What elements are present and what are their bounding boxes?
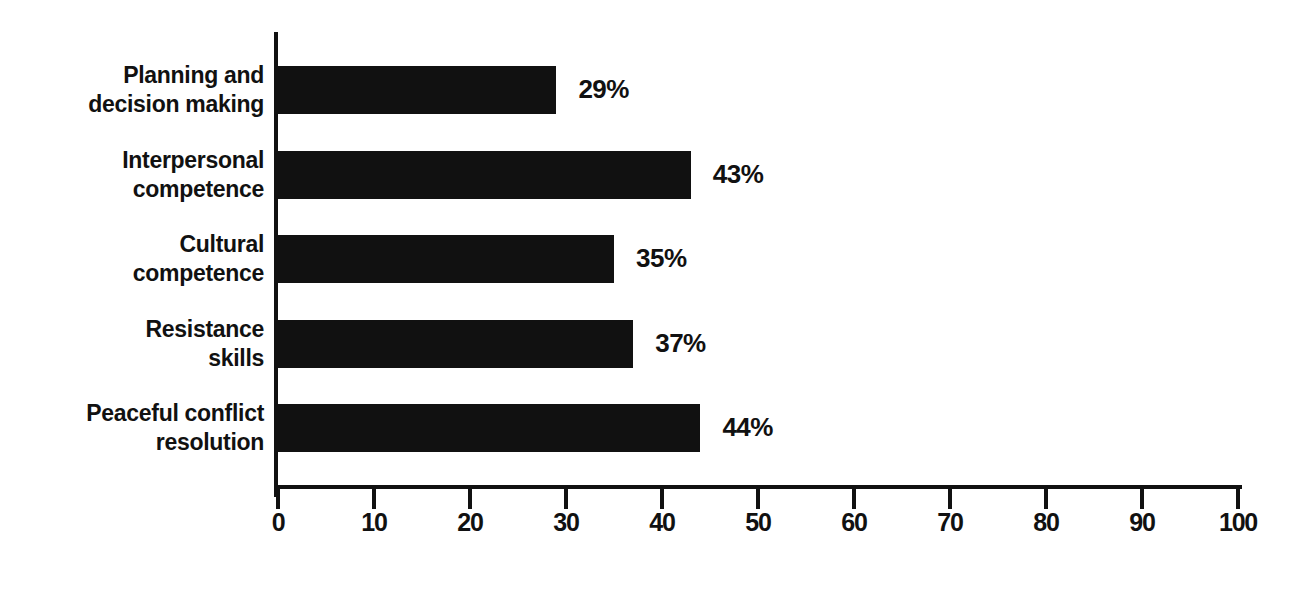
x-axis-tick — [468, 489, 472, 509]
x-axis-tick-label: 0 — [272, 508, 285, 537]
category-label-line: Interpersonal — [122, 146, 264, 175]
bar — [278, 235, 614, 283]
category-label-line: Peaceful conflict — [86, 399, 264, 428]
category-label-line: resolution — [86, 428, 264, 457]
bar-value-label: 29% — [578, 74, 629, 105]
x-axis-tick — [948, 489, 952, 509]
category-label-line: Planning and — [88, 61, 264, 90]
bar — [278, 66, 556, 114]
x-axis-tick-label: 100 — [1219, 508, 1257, 537]
x-axis-line — [278, 485, 1242, 489]
x-axis-tick — [1140, 489, 1144, 509]
x-axis-tick-label: 80 — [1033, 508, 1058, 537]
bar — [278, 404, 700, 452]
category-label: Peaceful conflictresolution — [86, 399, 264, 457]
x-axis-tick-label: 60 — [841, 508, 866, 537]
x-axis-tick — [1236, 489, 1240, 509]
category-label: Culturalcompetence — [133, 230, 264, 288]
x-axis-tick — [372, 489, 376, 509]
category-label-line: skills — [146, 344, 264, 373]
category-label-line: Resistance — [146, 315, 264, 344]
category-label: Planning anddecision making — [88, 61, 264, 119]
bar — [278, 151, 691, 199]
category-label-line: Cultural — [133, 230, 264, 259]
x-axis-tick — [852, 489, 856, 509]
category-label-line: decision making — [88, 90, 264, 119]
bar-value-label: 43% — [713, 159, 764, 190]
x-axis-tick-label: 30 — [553, 508, 578, 537]
category-label-line: competence — [122, 175, 264, 204]
x-axis-tick-label: 70 — [937, 508, 962, 537]
category-label: Interpersonalcompetence — [122, 146, 264, 204]
bar — [278, 320, 633, 368]
bar-chart: 0102030405060708090100 Planning anddecis… — [0, 0, 1308, 589]
x-axis-tick — [564, 489, 568, 509]
category-label: Resistanceskills — [146, 315, 264, 373]
x-axis-tick-label: 10 — [361, 508, 386, 537]
x-axis-tick-label: 40 — [649, 508, 674, 537]
bar-value-label: 44% — [722, 412, 773, 443]
x-axis-tick — [276, 489, 280, 509]
category-label-line: competence — [133, 259, 264, 288]
x-axis-tick-label: 90 — [1129, 508, 1154, 537]
x-axis-tick — [660, 489, 664, 509]
x-axis-tick — [756, 489, 760, 509]
bar-value-label: 37% — [655, 328, 706, 359]
x-axis-tick-label: 20 — [457, 508, 482, 537]
x-axis-tick — [1044, 489, 1048, 509]
x-axis-tick-label: 50 — [745, 508, 770, 537]
bar-value-label: 35% — [636, 243, 687, 274]
